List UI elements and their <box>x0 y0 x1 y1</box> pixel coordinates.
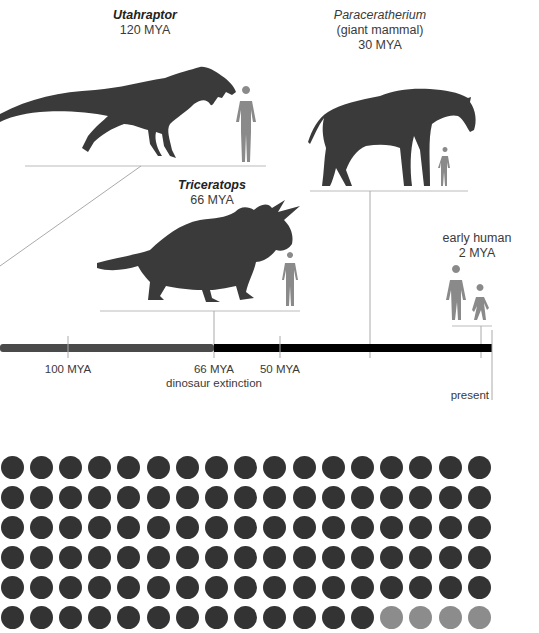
dot <box>351 456 374 479</box>
dot <box>205 486 228 509</box>
dot-highlight <box>380 606 403 629</box>
dot <box>88 576 111 599</box>
dot <box>380 456 403 479</box>
dot <box>263 606 286 629</box>
dot <box>59 546 82 569</box>
dot <box>59 456 82 479</box>
dot <box>1 516 24 539</box>
dot <box>147 516 170 539</box>
dot <box>205 516 228 539</box>
dot <box>205 576 228 599</box>
dot <box>30 606 53 629</box>
dot <box>147 456 170 479</box>
dot <box>147 606 170 629</box>
dot <box>380 546 403 569</box>
dot <box>176 516 199 539</box>
dot <box>439 456 462 479</box>
dot <box>351 546 374 569</box>
dot <box>88 546 111 569</box>
dot <box>380 486 403 509</box>
dot <box>88 456 111 479</box>
dot <box>234 456 257 479</box>
dot <box>205 606 228 629</box>
dot <box>380 576 403 599</box>
dot <box>439 516 462 539</box>
dot <box>234 516 257 539</box>
dot <box>351 606 374 629</box>
dot <box>263 516 286 539</box>
dot <box>234 606 257 629</box>
dot <box>234 486 257 509</box>
dot <box>30 486 53 509</box>
dot <box>88 606 111 629</box>
dot <box>322 606 345 629</box>
dot <box>147 576 170 599</box>
dot <box>351 486 374 509</box>
dot <box>1 486 24 509</box>
dot <box>409 456 432 479</box>
dot <box>234 546 257 569</box>
dot <box>30 576 53 599</box>
dot <box>30 546 53 569</box>
dot <box>409 516 432 539</box>
dot <box>293 516 316 539</box>
dot <box>205 456 228 479</box>
dot <box>293 546 316 569</box>
dot <box>351 516 374 539</box>
dot <box>176 576 199 599</box>
dot <box>380 516 403 539</box>
dot <box>59 606 82 629</box>
dot-highlight <box>409 606 432 629</box>
dot <box>409 486 432 509</box>
dot <box>1 606 24 629</box>
dot <box>263 546 286 569</box>
dot <box>205 546 228 569</box>
dot <box>117 516 140 539</box>
dot <box>263 486 286 509</box>
dot <box>147 546 170 569</box>
dot <box>468 486 491 509</box>
dot <box>468 546 491 569</box>
dot <box>322 516 345 539</box>
dot <box>1 576 24 599</box>
dot <box>468 516 491 539</box>
dot <box>322 546 345 569</box>
dot <box>322 456 345 479</box>
dot <box>409 546 432 569</box>
dot <box>117 546 140 569</box>
dot <box>1 546 24 569</box>
dot <box>439 546 462 569</box>
dot <box>176 606 199 629</box>
dot <box>468 456 491 479</box>
dot <box>293 486 316 509</box>
dot <box>117 456 140 479</box>
dot <box>147 486 170 509</box>
dot <box>1 456 24 479</box>
dot-grid <box>0 0 539 633</box>
dot <box>439 576 462 599</box>
dot <box>263 456 286 479</box>
dot <box>30 456 53 479</box>
dot <box>117 606 140 629</box>
dot <box>117 576 140 599</box>
dot-highlight <box>468 606 491 629</box>
dot <box>176 546 199 569</box>
dot <box>322 576 345 599</box>
dot-highlight <box>439 606 462 629</box>
dot <box>293 456 316 479</box>
dot <box>263 576 286 599</box>
dot <box>59 486 82 509</box>
dot <box>468 576 491 599</box>
dot <box>88 486 111 509</box>
dot <box>59 516 82 539</box>
dot <box>293 606 316 629</box>
dot <box>30 516 53 539</box>
dot <box>88 516 111 539</box>
dot <box>176 486 199 509</box>
dot <box>176 456 199 479</box>
dot <box>351 576 374 599</box>
dot <box>439 486 462 509</box>
dot <box>322 486 345 509</box>
dot <box>293 576 316 599</box>
dot <box>234 576 257 599</box>
